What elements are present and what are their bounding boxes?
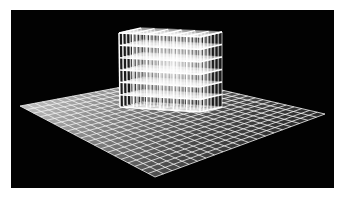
wireframe-scene: [0, 0, 345, 197]
wireframe-cube: [119, 28, 222, 112]
